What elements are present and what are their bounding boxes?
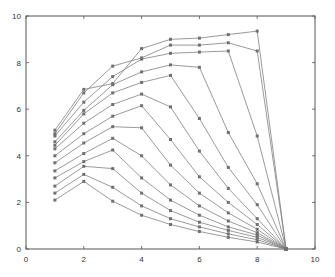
data-point-marker [169, 38, 172, 41]
series-layer [53, 30, 287, 251]
data-point-marker [111, 65, 114, 68]
data-point-marker [198, 150, 201, 153]
data-point-marker [111, 115, 114, 118]
data-point-marker [82, 180, 85, 183]
data-point-marker [82, 165, 85, 168]
data-point-marker [198, 51, 201, 54]
data-point-marker [198, 66, 201, 69]
x-tick-label: 6 [197, 255, 202, 264]
data-point-marker [227, 41, 230, 44]
data-point-marker [198, 214, 201, 217]
data-point-marker [256, 228, 259, 231]
data-point-marker [82, 152, 85, 155]
data-point-marker [111, 137, 114, 140]
data-point-marker [140, 214, 143, 217]
data-point-marker [227, 201, 230, 204]
data-point-marker [256, 182, 259, 185]
data-point-marker [169, 217, 172, 220]
data-point-marker [227, 220, 230, 223]
data-point-marker [53, 144, 56, 147]
data-point-marker [140, 56, 143, 59]
data-point-marker [140, 70, 143, 73]
data-point-marker [82, 122, 85, 125]
data-point-marker [53, 176, 56, 179]
data-point-marker [111, 149, 114, 152]
data-point-marker [169, 209, 172, 212]
data-point-marker [169, 199, 172, 202]
data-point-marker [140, 204, 143, 207]
line-chart: 02468100246810 [0, 0, 335, 277]
data-point-marker [227, 229, 230, 232]
data-point-marker [169, 74, 172, 77]
data-point-marker [198, 175, 201, 178]
series-s11 [53, 50, 287, 251]
x-tick-label: 2 [82, 255, 87, 264]
data-point-marker [140, 81, 143, 84]
data-point-marker [169, 183, 172, 186]
y-tick-label: 4 [17, 152, 22, 161]
data-point-marker [53, 199, 56, 202]
data-point-marker [140, 104, 143, 107]
data-point-marker [227, 236, 230, 239]
series-line [55, 138, 286, 249]
data-point-marker [256, 30, 259, 33]
data-point-marker [169, 105, 172, 108]
data-point-marker [140, 154, 143, 157]
series-s3 [53, 165, 287, 251]
data-point-marker [53, 140, 56, 143]
y-tick-label: 6 [17, 105, 22, 114]
x-tick-label: 8 [255, 255, 260, 264]
data-point-marker [227, 187, 230, 190]
y-tick-label: 2 [17, 198, 22, 207]
data-point-marker [169, 223, 172, 226]
data-point-marker [140, 192, 143, 195]
x-tick-label: 10 [311, 255, 320, 264]
data-point-marker [227, 211, 230, 214]
data-point-marker [53, 129, 56, 132]
data-point-marker [53, 147, 56, 150]
y-tick-label: 10 [12, 12, 21, 21]
plot-border [26, 16, 315, 249]
data-point-marker [140, 93, 143, 96]
data-point-marker [53, 154, 56, 157]
data-point-marker [111, 75, 114, 78]
data-point-marker [227, 225, 230, 228]
data-point-marker [227, 50, 230, 53]
data-point-marker [227, 33, 230, 36]
data-point-marker [198, 221, 201, 224]
data-point-marker [227, 131, 230, 134]
data-point-marker [111, 82, 114, 85]
data-point-marker [82, 142, 85, 145]
data-point-marker [140, 176, 143, 179]
data-point-marker [53, 161, 56, 164]
data-point-marker [256, 223, 259, 226]
data-point-marker [111, 91, 114, 94]
data-point-marker [169, 63, 172, 66]
data-point-marker [82, 160, 85, 163]
series-s7 [53, 104, 287, 250]
series-s1 [53, 180, 287, 251]
data-point-marker [169, 164, 172, 167]
plot-frame [26, 16, 315, 249]
data-point-marker [82, 132, 85, 135]
data-point-marker [169, 138, 172, 141]
data-point-marker [82, 109, 85, 112]
data-point-marker [82, 88, 85, 91]
data-point-marker [82, 101, 85, 104]
data-point-marker [198, 204, 201, 207]
data-point-marker [256, 135, 259, 138]
data-point-marker [111, 103, 114, 106]
data-point-marker [111, 125, 114, 128]
data-point-marker [111, 200, 114, 203]
data-point-marker [198, 37, 201, 40]
data-point-marker [256, 231, 259, 234]
data-point-marker [82, 112, 85, 115]
data-point-marker [82, 91, 85, 94]
data-point-marker [169, 52, 172, 55]
data-point-marker [140, 47, 143, 50]
data-point-marker [82, 173, 85, 176]
data-point-marker [198, 44, 201, 47]
data-point-marker [256, 203, 259, 206]
data-point-marker [140, 126, 143, 129]
data-point-marker [256, 217, 259, 220]
